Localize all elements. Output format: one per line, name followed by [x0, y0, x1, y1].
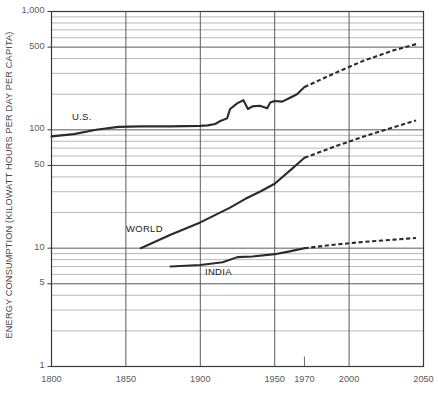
- y-axis-tick-label: 1,000: [0, 5, 45, 15]
- series-line-dashed-india: [304, 238, 416, 248]
- series-line-india: [171, 248, 305, 266]
- plot-frame: [52, 12, 424, 367]
- series-line-world: [141, 158, 305, 248]
- x-axis-tick-label: 1970: [281, 374, 327, 384]
- y-axis-tick-label: 50: [0, 159, 45, 169]
- y-axis-tick-label: 500: [0, 41, 45, 51]
- y-axis-tick-label: 1: [0, 360, 45, 370]
- x-axis-tick-label: 2000: [326, 374, 372, 384]
- series-label-us: U.S.: [72, 111, 92, 122]
- x-axis-tick-label: 1900: [177, 374, 223, 384]
- series-line-dashed-world: [304, 120, 416, 157]
- series-label-india: INDIA: [205, 266, 232, 277]
- series-label-world: WORLD: [126, 223, 163, 234]
- y-axis-tick-label: 5: [0, 277, 45, 287]
- x-axis-tick-label: 2050: [401, 374, 438, 384]
- y-axis-tick-label: 10: [0, 242, 45, 252]
- x-axis-tick-label: 1800: [29, 374, 75, 384]
- x-axis-tick-label: 1850: [103, 374, 149, 384]
- y-axis-tick-label: 100: [0, 123, 45, 133]
- series-line-dashed-us: [304, 44, 416, 87]
